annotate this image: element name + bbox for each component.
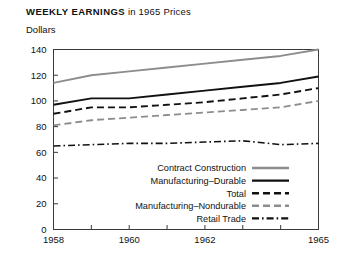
x-axis-tick-label: 1965 [308,234,329,245]
data-series-group [54,50,319,146]
series-line [54,101,319,125]
x-axis-tick-label: 1960 [119,234,140,245]
y-axis-tick-label: 80 [36,121,47,132]
y-axis-tick-label: 20 [36,198,47,209]
chart-legend: Contract ConstructionManufacturing–Durab… [135,163,289,223]
legend-item-label: Contract Construction [157,163,246,173]
series-line [54,77,319,105]
chart-plot-area: 020406080100120140 1958196019621965 Cont… [0,0,354,262]
x-axis-tick-label: 1958 [43,234,64,245]
legend-item-label: Manufacturing–Nondurable [135,201,246,211]
x-axis-tick-label: 1962 [194,234,215,245]
y-axis-tick-label: 120 [31,70,47,81]
legend-item-label: Retail Trade [196,214,246,224]
series-line [54,141,319,146]
legend-item-label: Manufacturing–Durable [150,176,246,186]
y-axis-tick-label: 100 [31,95,47,106]
chart-figure: WEEKLY EARNINGS in 1965 Prices Dollars 0… [0,0,354,262]
y-axis-tick-label: 140 [31,44,47,55]
legend-item-label: Total [227,189,246,199]
series-line [54,50,319,83]
y-axis-tick-label: 40 [36,172,47,183]
x-axis-ticks: 1958196019621965 [43,225,329,245]
y-axis-tick-label: 60 [36,147,47,158]
